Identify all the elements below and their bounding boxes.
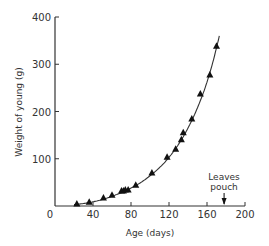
arrow-down-icon bbox=[222, 193, 227, 205]
triangle-marker bbox=[109, 191, 116, 198]
y-tick-label: 300 bbox=[32, 59, 51, 70]
x-tick-label: 0 bbox=[47, 209, 53, 220]
x-axis-title: Age (days) bbox=[126, 228, 175, 238]
x-tick-label: 200 bbox=[235, 209, 254, 220]
triangle-marker bbox=[172, 145, 179, 152]
y-tick-label: 200 bbox=[32, 107, 51, 118]
triangle-marker bbox=[100, 194, 107, 201]
y-tick-label: 400 bbox=[32, 12, 51, 23]
triangle-marker bbox=[206, 71, 213, 78]
triangle-marker bbox=[86, 198, 93, 205]
triangle-marker bbox=[213, 42, 220, 49]
x-tick-label: 120 bbox=[159, 209, 178, 220]
data-points bbox=[73, 42, 220, 206]
x-tick-label: 160 bbox=[197, 209, 216, 220]
fitted-curve bbox=[74, 36, 219, 205]
y-tick-label: 100 bbox=[32, 154, 51, 165]
x-tick-label: 40 bbox=[87, 209, 100, 220]
triangle-marker bbox=[73, 200, 80, 207]
annotation-pouch: pouch bbox=[210, 182, 238, 192]
growth-chart: 10020030040004080120160200 Age (days) We… bbox=[0, 0, 269, 246]
x-tick-label: 80 bbox=[125, 209, 138, 220]
annotation-leaves: Leaves bbox=[208, 172, 240, 182]
y-axis-title: Weight of young (g) bbox=[14, 67, 24, 156]
